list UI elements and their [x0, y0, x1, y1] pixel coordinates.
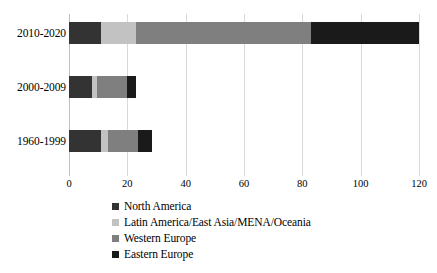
- x-tick-label: 40: [180, 178, 191, 190]
- x-tick-label: 60: [239, 178, 250, 190]
- legend-item[interactable]: North America: [112, 199, 412, 214]
- category-label: 1960-1999: [2, 135, 66, 147]
- bar-row: [69, 76, 136, 98]
- bar-row: [69, 22, 419, 44]
- x-tick-label: 0: [66, 178, 71, 190]
- bar-segment: [136, 22, 311, 44]
- x-tick-label: 80: [297, 178, 308, 190]
- category-label: 2000-2009: [2, 81, 66, 93]
- legend-label: Eastern Europe: [124, 248, 193, 261]
- bar-segment: [69, 76, 92, 98]
- x-tick-label: 100: [353, 178, 369, 190]
- bar-segment: [108, 130, 137, 152]
- x-tick-label: 120: [411, 178, 427, 190]
- legend-label: Western Europe: [124, 232, 196, 245]
- bar-segment: [311, 22, 419, 44]
- chart-legend: North AmericaLatin America/East Asia/MEN…: [112, 199, 412, 263]
- gridline-120: [419, 14, 420, 176]
- plot-area: [69, 14, 419, 176]
- bar-segment: [101, 130, 108, 152]
- legend-label: North America: [124, 200, 191, 213]
- bar-row: [69, 130, 152, 152]
- category-label: 2010-2020: [2, 27, 66, 39]
- bar-segment: [69, 22, 101, 44]
- bar-segment: [127, 76, 136, 98]
- legend-swatch-icon: [112, 219, 119, 226]
- legend-item[interactable]: Eastern Europe: [112, 247, 412, 262]
- category-axis: 2010-20202000-20091960-1999: [0, 14, 66, 176]
- bar-segment: [97, 76, 128, 98]
- bar-segment: [101, 22, 136, 44]
- legend-swatch-icon: [112, 203, 119, 210]
- x-tick-label: 20: [122, 178, 133, 190]
- legend-swatch-icon: [112, 251, 119, 258]
- legend-label: Latin America/East Asia/MENA/Oceania: [124, 216, 311, 229]
- bar-segment: [138, 130, 153, 152]
- legend-swatch-icon: [112, 235, 119, 242]
- bar-segment: [69, 130, 101, 152]
- legend-item[interactable]: Western Europe: [112, 231, 412, 246]
- legend-item[interactable]: Latin America/East Asia/MENA/Oceania: [112, 215, 412, 230]
- value-axis-ticks: 020406080100120: [0, 178, 437, 194]
- stacked-bar-chart: 2010-20202000-20091960-1999 020406080100…: [0, 0, 437, 273]
